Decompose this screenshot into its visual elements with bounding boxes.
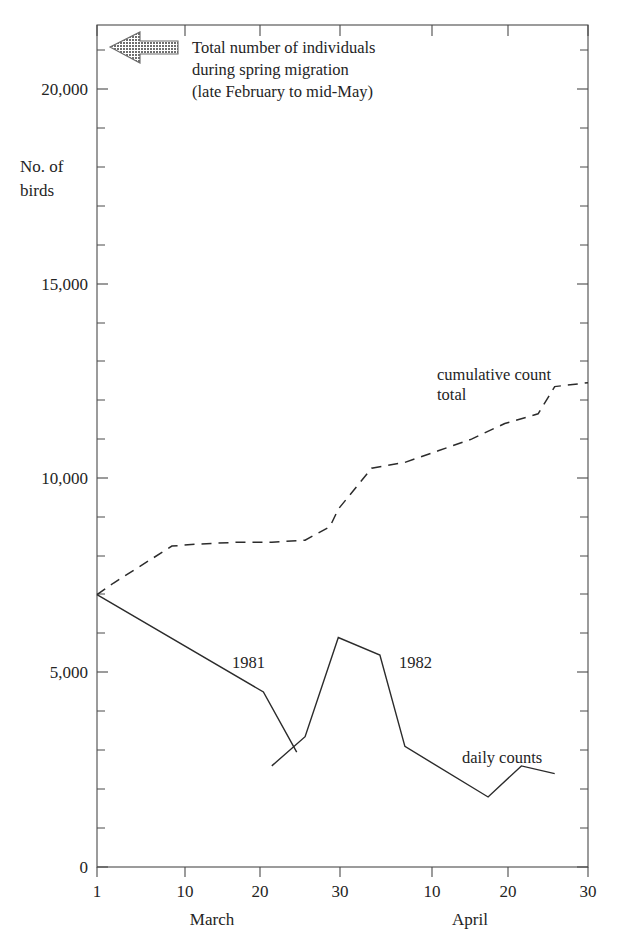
ytick-label-5000: 5,000	[50, 663, 88, 682]
annotation-line-3: (late February to mid-May)	[192, 82, 373, 101]
xtick-label-march-1: 1	[93, 882, 102, 901]
xtick-label-april-20: 20	[500, 882, 517, 901]
ytick-label-15000: 15,000	[41, 275, 88, 294]
series-label-cumulative-line2: total	[437, 385, 467, 404]
total-individuals-annotation: Total number of individuals during sprin…	[192, 38, 376, 101]
series-label-cumulative-line1: cumulative count	[437, 365, 552, 384]
bird-migration-line-chart: 0 5,000 10,000 15,000 20,000 No. of bird…	[0, 0, 622, 931]
ytick-label-10000: 10,000	[41, 469, 88, 488]
ytick-label-20000: 20,000	[41, 80, 88, 99]
xtick-label-march-30: 30	[332, 882, 349, 901]
y-axis-title-line2: birds	[20, 181, 54, 200]
annotation-line-2: during spring migration	[192, 60, 349, 79]
xtick-label-april-30: 30	[580, 882, 597, 901]
ytick-label-0: 0	[80, 858, 89, 877]
xtick-label-april-10: 10	[424, 882, 441, 901]
series-label-1981: 1981	[232, 653, 265, 672]
y-axis-title-line1: No. of	[20, 157, 64, 176]
xtick-label-march-10: 10	[177, 882, 194, 901]
chart-svg: 0 5,000 10,000 15,000 20,000 No. of bird…	[0, 0, 622, 931]
series-label-daily-counts: daily counts	[462, 748, 542, 767]
annotation-line-1: Total number of individuals	[192, 38, 376, 57]
month-label-april: April	[452, 910, 488, 929]
chart-background	[0, 0, 622, 931]
month-label-march: March	[190, 910, 235, 929]
xtick-label-march-20: 20	[252, 882, 269, 901]
series-label-1982: 1982	[399, 653, 432, 672]
